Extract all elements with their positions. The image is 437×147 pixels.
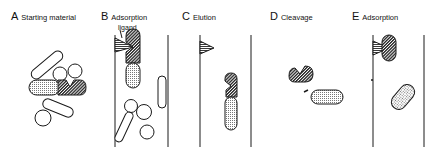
panel-e-figure xyxy=(371,35,424,147)
panel-c-figure xyxy=(200,35,251,147)
panel-d-figure xyxy=(289,66,343,104)
affinity-diagram xyxy=(0,0,437,147)
panel-a-figure xyxy=(29,49,86,126)
panel-b-figure xyxy=(114,29,168,147)
